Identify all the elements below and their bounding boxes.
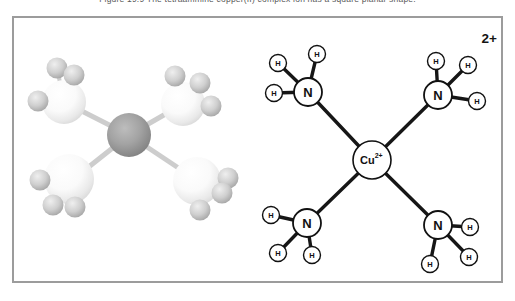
model-sphere-n [42, 80, 86, 124]
model-sphere-cu [107, 113, 151, 157]
atom-label-h: H [314, 50, 319, 59]
atom-label-n: N [433, 88, 442, 103]
model-sphere-h [30, 170, 51, 191]
model-sphere-h [190, 200, 211, 221]
structural-diagram: Cu2+NNNNHHHHHHHHHHHH [263, 46, 486, 273]
atom-label-n: N [433, 218, 442, 233]
atom-label-h: H [309, 251, 314, 260]
ball-stick-model [28, 58, 239, 221]
figure-art: Cu2+NNNNHHHHHHHHHHHH 2+ [0, 0, 515, 301]
atom-label-h: H [271, 89, 276, 98]
atom-label-h: H [427, 260, 432, 269]
atom-label-h: H [474, 97, 479, 106]
complex-charge-label: 2+ [482, 31, 498, 46]
atom-label-h: H [275, 249, 280, 258]
atom-label-h: H [275, 59, 280, 68]
model-sphere-h [165, 66, 186, 87]
atom-label-h: H [268, 211, 273, 220]
atom-label-h: H [465, 61, 470, 70]
model-sphere-h [201, 96, 222, 117]
atom-label-h: H [466, 253, 471, 262]
atom-label-h: H [467, 223, 472, 232]
model-sphere-h [212, 183, 233, 204]
atom-label-n: N [303, 85, 312, 100]
atom-label-n: N [302, 216, 311, 231]
model-sphere-h [64, 65, 85, 86]
model-sphere-h [28, 91, 49, 112]
atom-label-h: H [433, 57, 438, 66]
model-sphere-h [43, 195, 64, 216]
model-sphere-h [65, 197, 86, 218]
model-sphere-h [190, 73, 211, 94]
